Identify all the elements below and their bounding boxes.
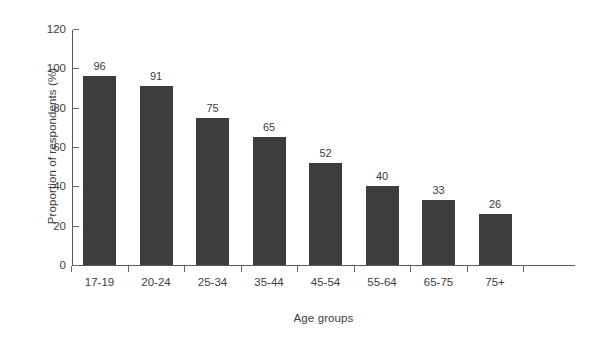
y-tick: 40	[73, 186, 79, 187]
x-tick	[523, 266, 524, 272]
x-tick	[410, 266, 411, 272]
x-tick-label: 20-24	[141, 276, 170, 288]
y-tick: 120	[73, 29, 79, 30]
x-tick-label: 75+	[485, 276, 505, 288]
y-tick-label: 100	[47, 60, 66, 76]
y-tick-label: 0	[60, 257, 66, 273]
bar-value-label: 26	[489, 198, 501, 210]
x-tick-label: 65-75	[424, 276, 453, 288]
bar-value-label: 96	[93, 60, 105, 72]
x-tick	[184, 266, 185, 272]
y-tick: 80	[73, 108, 79, 109]
x-tick	[128, 266, 129, 272]
y-tick-label: 60	[53, 139, 66, 155]
y-tick: 0	[73, 265, 79, 266]
x-axis-line	[72, 265, 575, 266]
x-tick	[467, 266, 468, 272]
x-tick-label: 55-64	[367, 276, 396, 288]
bar-value-label: 52	[319, 147, 331, 159]
bar: 2675+	[479, 214, 512, 265]
bar-value-label: 33	[432, 184, 444, 196]
bar-value-label: 75	[206, 102, 218, 114]
x-tick	[297, 266, 298, 272]
y-tick-label: 120	[47, 21, 66, 37]
bar-value-label: 91	[150, 70, 162, 82]
bar-chart: Proportion of respondents (%) 0204060801…	[0, 0, 602, 351]
y-axis-line	[72, 30, 73, 266]
y-tick-label: 20	[53, 218, 66, 234]
bar: 7525-34	[196, 118, 229, 266]
y-tick-label: 40	[53, 178, 66, 194]
x-tick	[241, 266, 242, 272]
y-tick: 100	[73, 68, 79, 69]
bar-value-label: 40	[376, 170, 388, 182]
x-tick-label: 17-19	[85, 276, 114, 288]
x-tick	[354, 266, 355, 272]
y-tick: 60	[73, 147, 79, 148]
x-axis-title: Age groups	[72, 312, 575, 324]
bar: 4055-64	[366, 186, 399, 265]
x-tick-label: 25-34	[198, 276, 227, 288]
bar: 9617-19	[83, 76, 116, 265]
bar-value-label: 65	[263, 121, 275, 133]
y-tick: 20	[73, 226, 79, 227]
x-tick-label: 45-54	[311, 276, 340, 288]
bar: 6535-44	[253, 137, 286, 265]
bar: 9120-24	[140, 86, 173, 265]
plot-area: 020406080100120 9617-199120-247525-34653…	[72, 30, 575, 266]
bar: 5245-54	[309, 163, 342, 265]
bar: 3365-75	[422, 200, 455, 265]
x-tick	[71, 266, 72, 272]
x-tick-label: 35-44	[254, 276, 283, 288]
y-tick-label: 80	[53, 100, 66, 116]
